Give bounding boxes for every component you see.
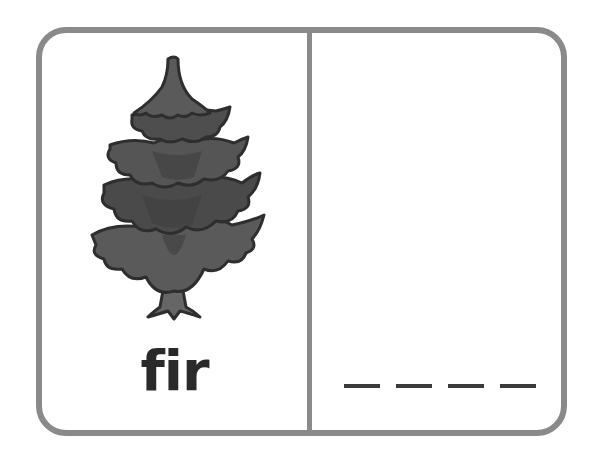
picture-panel: fir bbox=[42, 33, 307, 430]
letter-blank-4[interactable] bbox=[500, 384, 536, 388]
letter-blank-3[interactable] bbox=[448, 384, 484, 388]
letter-blank-2[interactable] bbox=[396, 384, 432, 388]
word-card: fir bbox=[36, 27, 567, 436]
fir-tree-icon bbox=[82, 55, 267, 321]
answer-panel bbox=[312, 33, 561, 430]
answer-blanks[interactable] bbox=[344, 384, 536, 388]
card-word: fir bbox=[42, 338, 307, 403]
letter-blank-1[interactable] bbox=[344, 384, 380, 388]
